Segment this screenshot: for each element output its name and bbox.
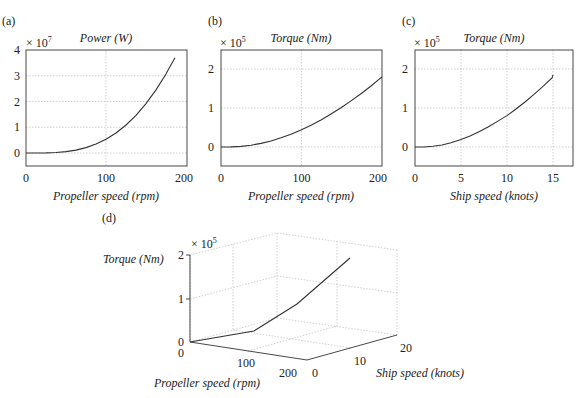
panel-d-tag: (d) xyxy=(102,211,116,225)
panel-a-ytick: 3 xyxy=(14,69,20,83)
panel-d-xtick: 200 xyxy=(279,366,297,380)
panel-d-ytick: 10 xyxy=(354,354,366,368)
panel-b-ytick: 2 xyxy=(208,62,214,76)
panel-b-title: Torque (Nm) xyxy=(271,31,332,45)
panel-c-torque-curve xyxy=(415,75,553,147)
panel-b-xtick: 0 xyxy=(218,171,224,185)
panel-a-xtick: 100 xyxy=(97,171,115,185)
panel-d-xtick: 0 xyxy=(178,346,184,360)
panel-d-grid xyxy=(190,233,397,351)
panel-d-ytick: 0 xyxy=(312,366,318,380)
panel-a-ytick: 4 xyxy=(14,43,20,57)
panel-c: (c) Torque (Nm) × 105 2 1 0 0 5 10 15 Sh… xyxy=(402,14,573,203)
panel-d: (d) Torque (Nm) × 105 xyxy=(102,211,464,390)
panel-b-xtick: 100 xyxy=(293,171,311,185)
panel-c-multiplier: × 105 xyxy=(414,35,440,50)
panel-a-xtick: 200 xyxy=(175,171,193,185)
figure: (a) Power (W) × 107 4 3 2 1 0 0 100 200 … xyxy=(0,0,584,398)
panel-b-ytick: 1 xyxy=(208,101,214,115)
panel-d-multiplier: × 105 xyxy=(191,236,217,251)
panel-a-ytick: 1 xyxy=(14,120,20,134)
panel-d-zlabel: Torque (Nm) xyxy=(103,252,164,266)
panel-d-xtick: 100 xyxy=(237,356,255,370)
panel-a-xlabel: Propeller speed (rpm) xyxy=(52,189,159,203)
panel-b-ytick: 0 xyxy=(208,140,214,154)
panel-c-title: Torque (Nm) xyxy=(464,31,525,45)
panel-d-xlabel: Propeller speed (rpm) xyxy=(153,376,260,390)
panel-a-power-curve xyxy=(26,58,175,153)
panel-a-ytick: 2 xyxy=(14,95,20,109)
panel-b-multiplier: × 105 xyxy=(220,35,246,50)
panel-b-xlabel: Propeller speed (rpm) xyxy=(247,189,354,203)
panel-d-ytick: 20 xyxy=(400,341,412,355)
panel-b-xtick: 200 xyxy=(369,171,387,185)
panel-b: (b) Torque (Nm) × 105 2 1 0 0 100 200 Pr… xyxy=(208,14,387,203)
panel-d-ztick: 1 xyxy=(178,292,184,306)
panel-a-title: Power (W) xyxy=(79,31,132,45)
panel-c-ytick: 0 xyxy=(402,140,408,154)
panel-d-y-axis xyxy=(307,335,397,360)
panel-c-ytick: 1 xyxy=(402,101,408,115)
panel-d-ylabel: Ship speed (knots) xyxy=(376,366,464,380)
panel-c-xtick: 15 xyxy=(547,171,559,185)
panel-c-tag: (c) xyxy=(402,14,415,28)
panel-c-xtick: 0 xyxy=(412,171,418,185)
panel-c-ytick: 2 xyxy=(402,62,408,76)
panel-a-multiplier: × 107 xyxy=(26,35,52,50)
panel-c-xtick: 10 xyxy=(501,171,513,185)
panel-a: (a) Power (W) × 107 4 3 2 1 0 0 100 200 … xyxy=(2,14,193,203)
panel-d-ztick: 2 xyxy=(178,248,184,262)
panel-c-xtick: 5 xyxy=(458,171,464,185)
panel-b-tag: (b) xyxy=(208,14,222,28)
panel-d-torque-curve xyxy=(190,258,350,342)
panel-a-axes-frame xyxy=(26,50,187,166)
panel-a-xtick: 0 xyxy=(23,171,29,185)
panel-a-ytick: 0 xyxy=(14,146,20,160)
panel-a-tag: (a) xyxy=(2,14,15,28)
panel-c-xlabel: Ship speed (knots) xyxy=(450,189,538,203)
